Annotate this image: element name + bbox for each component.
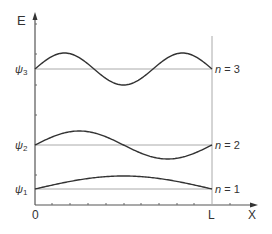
x-origin-label: 0 — [32, 208, 39, 222]
psi1-label: ψ1 — [15, 183, 28, 197]
y-axis-label: E — [17, 13, 26, 28]
psi2-label: ψ2 — [15, 139, 28, 153]
x-end-label: L — [208, 208, 215, 222]
x-axis-label: X — [248, 208, 256, 222]
energy-level-diagram: E X 0 L ψ3 ψ2 ψ1 n = 3 n = 2 n = 1 — [0, 0, 272, 234]
y-axis-arrow-icon — [33, 12, 38, 20]
wavefunction-n1 — [35, 176, 212, 189]
n3-label: n = 3 — [215, 63, 240, 75]
x-axis-arrow-icon — [250, 203, 258, 208]
psi3-label: ψ3 — [15, 63, 28, 77]
n2-label: n = 2 — [215, 139, 240, 151]
n1-label: n = 1 — [215, 183, 240, 195]
